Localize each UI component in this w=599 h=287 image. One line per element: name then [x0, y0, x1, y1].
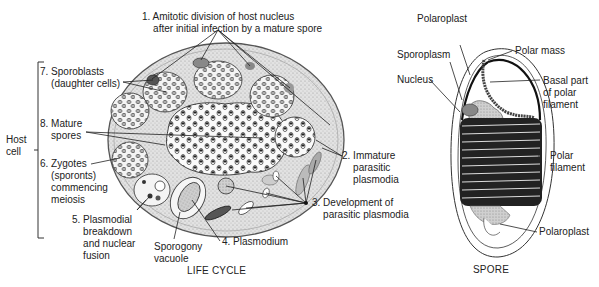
label-step-8: 8. Mature spores [40, 118, 82, 142]
polar-filament-coils [460, 118, 542, 206]
label-sporogony-vacuole: Sporogony vacuole [154, 241, 202, 265]
label-step-1: 1. Amitotic division of host nucleus aft… [142, 11, 322, 35]
label-step-2: 2. Immature parasitic plasmodia [342, 150, 399, 186]
label-step-4: 4. Plasmodium [222, 236, 288, 248]
label-polaroplast-bottom: Polaroplast [539, 226, 589, 238]
caption-spore: SPORE [473, 264, 509, 275]
label-step-7: 7. Sporoblasts (daughter cells) [40, 66, 120, 90]
label-polaroplast-top: Polaroplast [417, 13, 467, 25]
label-host-cell: Host cell [6, 134, 27, 158]
label-polar-mass: Polar mass [515, 45, 565, 57]
label-step-5: 5. Plasmodial breakdown and nuclear fusi… [72, 214, 135, 262]
caption-life-cycle: LIFE CYCLE [187, 265, 246, 276]
label-nucleus: Nucleus [397, 74, 433, 86]
label-step-6: 6. Zygotes (sporonts) commencing meiosis [40, 158, 108, 206]
label-step-3: 3. Development of parasitic plasmodia [312, 197, 409, 221]
label-sporoplasm: Sporoplasm [397, 49, 450, 61]
label-basal-part: Basal part of polar filament [543, 75, 588, 111]
host-cell [108, 43, 344, 237]
label-polar-filament: Polar filament [550, 150, 585, 174]
